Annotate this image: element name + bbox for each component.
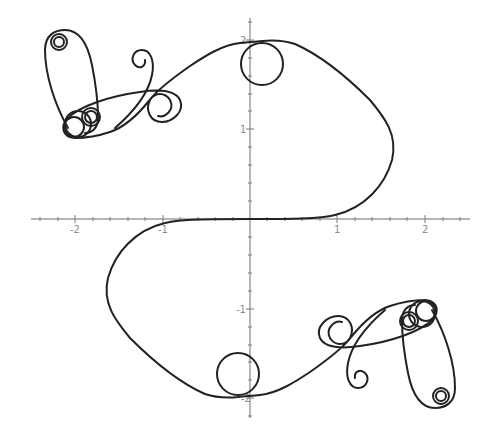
y-tick-label: 1: [240, 124, 246, 135]
y-tick-label: 2: [240, 35, 246, 46]
x-tick-label: -2: [70, 224, 80, 235]
x-tick-label: 1: [334, 224, 340, 235]
x-tick-label: 2: [422, 224, 428, 235]
plot-area: -2 -1 1 2 -2 -1 1 2: [0, 0, 493, 440]
y-tick-label: -1: [236, 304, 246, 315]
x-tick-label: -1: [158, 224, 168, 235]
curve-lower-half: [107, 219, 455, 408]
curve-upper-half: [45, 30, 393, 219]
